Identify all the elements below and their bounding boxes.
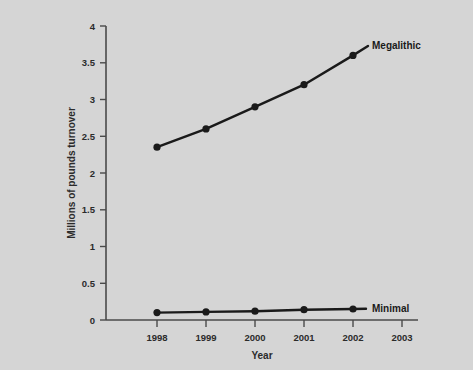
y-tick-label-1-5: 1.5: [82, 204, 96, 215]
line-chart: 0 0.5 1 1.5 2 2.5 3 3.5 4 1998 1999 2000…: [0, 0, 473, 370]
chart-figure: 0 0.5 1 1.5 2 2.5 3 3.5 4 1998 1999 2000…: [0, 0, 473, 379]
y-tick-label-1: 1: [90, 241, 96, 252]
y-tick-label-2: 2: [90, 168, 95, 179]
y-tick-label-3-5: 3.5: [82, 57, 96, 68]
series-minimal-line: [157, 309, 366, 313]
data-point: [300, 81, 307, 88]
data-point: [202, 125, 209, 132]
series-label-megalithic: Megalithic: [372, 40, 421, 51]
series-minimal: Minimal: [153, 303, 409, 316]
data-point: [300, 306, 307, 313]
data-point: [349, 305, 356, 312]
x-tick-label-1998: 1998: [146, 332, 167, 343]
data-point: [349, 52, 356, 59]
y-tick-label-3: 3: [90, 94, 95, 105]
y-axis-tick-labels: 0 0.5 1 1.5 2 2.5 3 3.5 4: [82, 21, 96, 326]
series-megalithic-line: [157, 46, 368, 147]
axes-group: [106, 26, 418, 320]
x-tick-label-2000: 2000: [244, 332, 265, 343]
y-tick-label-4: 4: [90, 21, 96, 32]
data-point: [153, 144, 160, 151]
data-point: [202, 308, 209, 315]
x-tick-label-2003: 2003: [391, 332, 412, 343]
y-tick-label-2-5: 2.5: [82, 131, 96, 142]
series-megalithic: Megalithic: [153, 40, 421, 151]
y-axis-ticks: [100, 26, 106, 320]
x-axis-tick-labels: 1998 1999 2000 2001 2002 2003: [146, 332, 412, 343]
x-axis-title: Year: [251, 350, 272, 361]
series-label-minimal: Minimal: [372, 303, 409, 314]
x-tick-label-2002: 2002: [342, 332, 363, 343]
x-axis-ticks: [157, 320, 402, 327]
y-tick-label-0: 0: [90, 315, 95, 326]
data-point: [153, 309, 160, 316]
data-point: [251, 308, 258, 315]
data-point: [251, 103, 258, 110]
y-axis-title: Millions of pounds turnover: [66, 107, 77, 239]
x-tick-label-1999: 1999: [195, 332, 216, 343]
x-tick-label-2001: 2001: [293, 332, 315, 343]
y-tick-label-0-5: 0.5: [82, 278, 96, 289]
